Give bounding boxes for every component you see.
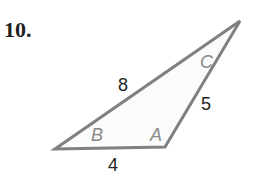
vertex-label-b: B <box>91 125 103 145</box>
triangle-figure: B A C 8 5 4 <box>0 0 257 176</box>
side-label-ac: 5 <box>201 94 211 114</box>
vertex-label-a: A <box>149 125 162 145</box>
side-label-bc: 8 <box>118 75 128 95</box>
triangle-shape <box>55 21 240 149</box>
side-label-ab: 4 <box>108 155 118 175</box>
vertex-label-c: C <box>200 52 214 72</box>
